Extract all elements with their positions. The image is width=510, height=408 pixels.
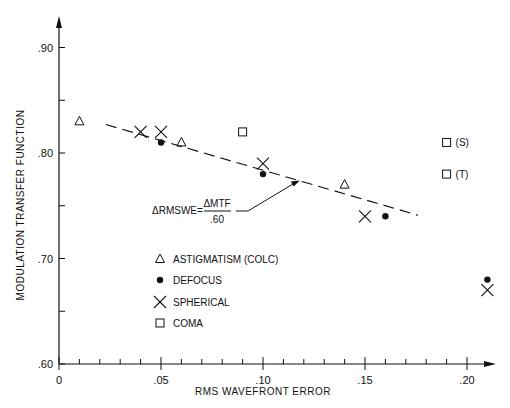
- legend-filled-circle-icon: [157, 277, 163, 283]
- x-tick-label: .05: [153, 374, 168, 386]
- annotation-denominator: .60: [210, 214, 224, 225]
- coma-point-labels: (S)(T): [456, 137, 469, 180]
- filled-circle-marker: [260, 171, 266, 177]
- filled-circle-marker: [158, 139, 164, 145]
- y-tick-label: .60: [38, 358, 53, 370]
- x-tick-label: 0: [56, 374, 62, 386]
- triangle-marker: [177, 137, 186, 146]
- x-marker: [155, 126, 167, 138]
- filled-circle-marker: [484, 276, 490, 282]
- rmswe-annotation: ΔRMSWE= ΔMTF .60: [152, 180, 300, 225]
- mtf-vs-rms-wavefront-chart: .60.70.80.90 0.05.10.15.20 RMS WAVEFRONT…: [0, 0, 510, 408]
- coma-label: (S): [456, 137, 469, 148]
- x-tick-label: .20: [459, 374, 474, 386]
- x-axis: 0.05.10.15.20: [56, 357, 496, 386]
- y-tick-label: .90: [38, 42, 53, 54]
- legend-triangle-icon: [156, 254, 165, 263]
- annotation-prefix: ΔRMSWE=: [152, 205, 203, 216]
- x-axis-label: RMS WAVEFRONT ERROR: [195, 386, 331, 397]
- legend-label: ASTIGMATISM (COLC): [173, 254, 278, 265]
- x-marker: [135, 126, 147, 138]
- legend-label: COMA: [173, 318, 203, 329]
- square-marker: [239, 128, 247, 136]
- square-marker: [443, 170, 451, 178]
- triangle-marker: [75, 116, 84, 125]
- x-marker: [481, 284, 493, 296]
- legend-label: SPHERICAL: [173, 297, 230, 308]
- x-tick-label: .15: [357, 374, 372, 386]
- trend-line: [106, 125, 418, 216]
- y-axis-label: MODULATION TRANSFER FUNCTION: [15, 110, 26, 301]
- legend-square-icon: [156, 319, 164, 327]
- legend-label: DEFOCUS: [173, 275, 222, 286]
- y-tick-label: .70: [38, 253, 53, 265]
- annotation-arrow: [236, 182, 296, 211]
- y-axis: .60.70.80.90: [38, 16, 65, 370]
- legend: ASTIGMATISM (COLC)DEFOCUSSPHERICALCOMA: [154, 254, 278, 329]
- data-points: [75, 116, 494, 296]
- triangle-marker: [340, 180, 349, 189]
- x-tick-label: .10: [255, 374, 270, 386]
- x-marker: [257, 158, 269, 170]
- filled-circle-marker: [382, 213, 388, 219]
- y-tick-label: .80: [38, 147, 53, 159]
- x-marker: [359, 210, 371, 222]
- square-marker: [443, 138, 451, 146]
- legend-x-icon: [154, 296, 166, 308]
- coma-label: (T): [456, 169, 469, 180]
- annotation-numerator: ΔMTF: [203, 198, 230, 209]
